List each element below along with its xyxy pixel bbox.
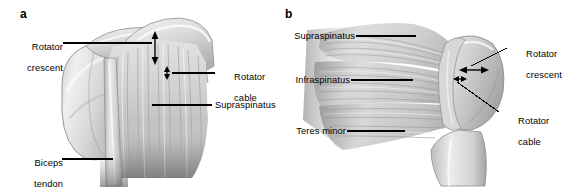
panel-b-letter: b	[285, 8, 292, 20]
label-infraspinatus-b: Infraspinatus	[285, 75, 350, 86]
panel-a: a Rotator crescent Rotator cable Suprasp…	[0, 0, 285, 187]
label-line-1: Biceps	[34, 158, 63, 168]
label-line-2: tendon	[34, 179, 63, 187]
label-rotator-crescent-b: Rotator crescent	[510, 38, 568, 91]
label-line-2: crescent	[526, 70, 562, 80]
panel-b-illustration	[285, 0, 569, 187]
panel-b: b Supraspinatus Infraspinatus Teres mino…	[285, 0, 569, 187]
label-biceps-tendon-a: Biceps tendon	[8, 147, 63, 187]
label-line-1: Rotator	[32, 42, 63, 52]
label-line-1: Rotator	[518, 116, 549, 126]
label-teres-minor-b: Teres minor	[285, 126, 346, 137]
anatomy-figure: a Rotator crescent Rotator cable Suprasp…	[0, 0, 569, 187]
label-rotator-cable-b: Rotator cable	[502, 105, 560, 158]
panel-a-letter: a	[20, 8, 27, 20]
humeral-shaft	[431, 130, 486, 186]
label-supraspinatus-b: Supraspinatus	[285, 31, 355, 42]
label-line-1: Rotator	[234, 72, 265, 82]
label-rotator-crescent-a: Rotator crescent	[8, 31, 63, 84]
label-line-2: crescent	[27, 63, 63, 73]
label-supraspinatus-a: Supraspinatus	[215, 100, 293, 111]
label-line-2: cable	[518, 137, 541, 147]
label-line-1: Rotator	[526, 49, 557, 59]
